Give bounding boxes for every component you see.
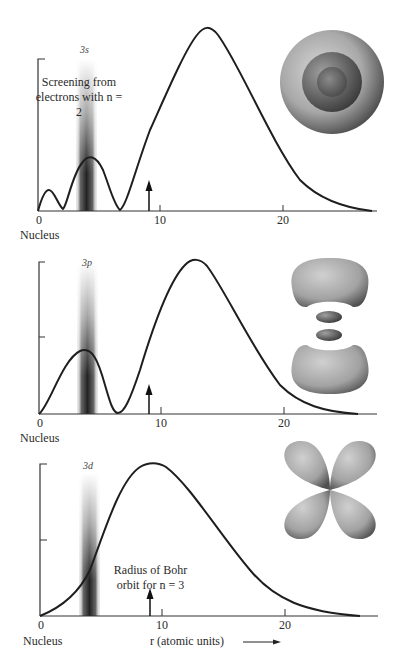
y-axis-3d xyxy=(40,464,47,616)
nucleus-label-3s: Nucleus xyxy=(20,228,59,243)
orbital-label-3s: 3s xyxy=(80,44,89,55)
tick-20-3s: 20 xyxy=(277,213,289,228)
tick-0-3d: 0 xyxy=(38,618,44,633)
tick-0-3p: 0 xyxy=(37,416,43,431)
tick-20-3p: 20 xyxy=(278,416,290,431)
x-axis-title: r (atomic units) xyxy=(150,634,224,649)
screening-annotation: Screening from electrons with n = 2 xyxy=(34,75,124,120)
orbital-label-3p: 3p xyxy=(82,257,92,268)
orbital-3s-sphere xyxy=(280,30,384,134)
panel-3d xyxy=(40,441,378,645)
annotation-line-2: orbit for n = 3 xyxy=(108,578,193,593)
y-axis-3p xyxy=(39,262,45,414)
nucleus-label-3p: Nucleus xyxy=(20,431,59,446)
orbital-3p-shape xyxy=(291,258,368,394)
tick-10-3s: 10 xyxy=(154,213,166,228)
panel-3p xyxy=(39,258,377,414)
tick-0-3s: 0 xyxy=(36,213,42,228)
annotation-line-1: Radius of Bohr xyxy=(108,563,193,578)
tick-20-3d: 20 xyxy=(279,618,291,633)
bohr-annotation: Radius of Bohr orbit for n = 3 xyxy=(108,563,193,593)
orbital-3d-shape xyxy=(284,441,375,539)
orbital-label-3d: 3d xyxy=(83,460,93,471)
nucleus-label-3d: Nucleus xyxy=(23,634,62,649)
tick-10-3p: 10 xyxy=(155,416,167,431)
annotation-line-2: electrons with n = 2 xyxy=(34,90,124,120)
tick-10-3d: 10 xyxy=(156,618,168,633)
annotation-line-1: Screening from xyxy=(34,75,124,90)
